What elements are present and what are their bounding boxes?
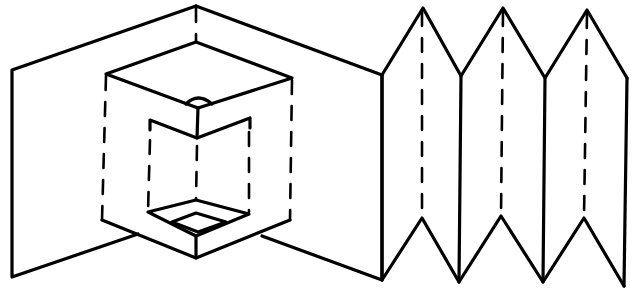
accordion-top-edge xyxy=(382,8,627,78)
popup-card xyxy=(12,6,382,280)
accordion-strip xyxy=(382,8,627,286)
accordion-panel-edge-2 xyxy=(459,76,461,282)
cube-left-fold xyxy=(102,76,106,220)
paper-folding-diagram xyxy=(0,0,633,296)
accordion-fold-2 xyxy=(501,12,503,216)
accordion-panel-edge-3 xyxy=(543,78,545,282)
inner-box-top xyxy=(150,118,250,138)
accordion-fold-3 xyxy=(584,14,587,218)
inner-center-fold xyxy=(196,146,197,200)
accordion-panel-edge-4 xyxy=(624,78,627,286)
cube-right-fold xyxy=(290,80,292,220)
card-right-panel xyxy=(196,6,382,280)
center-vertical-solid xyxy=(197,108,198,138)
accordion-bottom-edge xyxy=(382,216,624,286)
inner-left-fold xyxy=(148,140,150,212)
